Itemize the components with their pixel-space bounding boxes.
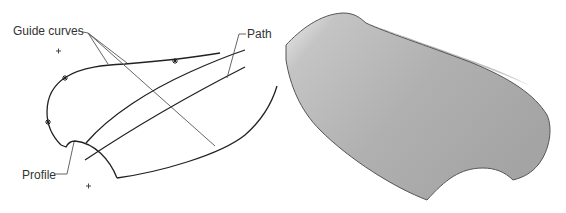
origin-point-marker (86, 184, 91, 189)
origin-point-marker (56, 49, 61, 54)
wireframe-panel: Guide curves Path Profile (13, 24, 277, 189)
swept-surface-panel (286, 13, 550, 200)
guide-point-marker (45, 119, 51, 125)
profile-label: Profile (22, 168, 56, 182)
profile-notch (61, 141, 117, 178)
profile-curve (47, 53, 220, 145)
guide-curves-leader (78, 31, 215, 146)
bottom-guide-curve (117, 86, 277, 178)
path-curve-1 (86, 50, 245, 143)
path-label: Path (247, 27, 272, 41)
path-curve-2 (85, 67, 245, 160)
swept-surface (286, 13, 550, 200)
guide-curves-label: Guide curves (13, 24, 84, 38)
sweep-diagram: Guide curves Path Profile (0, 0, 566, 213)
